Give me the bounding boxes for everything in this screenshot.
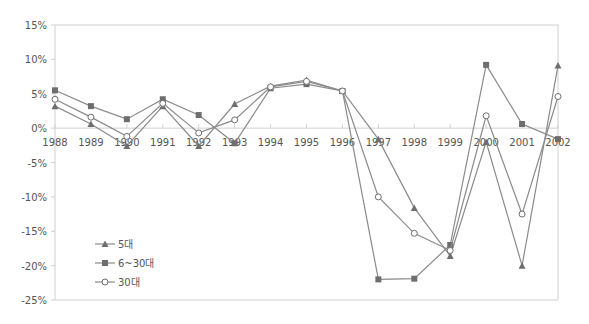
- circle-marker-icon: [52, 96, 58, 102]
- square-marker-icon: [411, 276, 417, 282]
- line-chart: 15%10%5%0%-5%-10%-15%-20%-25% 1988198919…: [0, 0, 589, 324]
- circle-marker-icon: [483, 113, 489, 119]
- triangle-marker-icon: [519, 262, 526, 269]
- series-line: [55, 66, 558, 266]
- square-marker-icon: [52, 87, 58, 93]
- circle-marker-icon: [519, 211, 525, 217]
- circle-marker-icon: [339, 88, 345, 94]
- x-tick-label: 1991: [150, 137, 175, 148]
- series-circle: [52, 78, 561, 253]
- y-tick-label: 15%: [25, 20, 47, 31]
- legend-label: 30대: [118, 277, 140, 288]
- square-marker-icon: [196, 112, 202, 118]
- y-axis: 15%10%5%0%-5%-10%-15%-20%-25%: [21, 20, 55, 306]
- x-tick-label: 2001: [509, 137, 534, 148]
- circle-marker-icon: [196, 130, 202, 136]
- square-marker-icon: [88, 103, 94, 109]
- series-triangle: [52, 62, 562, 269]
- square-marker-icon: [232, 140, 238, 146]
- x-tick-label: 1995: [294, 137, 319, 148]
- triangle-marker-icon: [555, 62, 562, 69]
- legend-item: 5대: [95, 239, 133, 250]
- y-tick-label: -10%: [21, 192, 47, 203]
- y-tick-label: 5%: [31, 89, 47, 100]
- legend-item: 6~30대: [95, 258, 154, 269]
- triangle-marker-icon: [411, 204, 418, 211]
- x-tick-label: 1999: [437, 137, 462, 148]
- square-marker-icon: [102, 260, 108, 266]
- circle-marker-icon: [447, 248, 453, 254]
- circle-marker-icon: [411, 230, 417, 236]
- circle-marker-icon: [304, 78, 310, 84]
- x-tick-label: 1989: [78, 137, 103, 148]
- circle-marker-icon: [102, 279, 108, 285]
- circle-marker-icon: [160, 100, 166, 106]
- circle-marker-icon: [124, 133, 130, 139]
- triangle-marker-icon: [87, 121, 94, 128]
- y-tick-label: 0%: [31, 123, 47, 134]
- legend-label: 6~30대: [118, 258, 154, 269]
- square-marker-icon: [555, 136, 561, 142]
- triangle-marker-icon: [52, 103, 59, 110]
- square-marker-icon: [519, 121, 525, 127]
- legend-label: 5대: [118, 239, 133, 250]
- square-marker-icon: [375, 276, 381, 282]
- x-tick-label: 1998: [402, 137, 427, 148]
- y-tick-label: -20%: [21, 261, 47, 272]
- triangle-marker-icon: [231, 101, 238, 108]
- legend: 5대6~30대30대: [95, 239, 154, 288]
- circle-marker-icon: [555, 94, 561, 100]
- legend-item: 30대: [95, 277, 140, 288]
- x-tick-label: 1994: [258, 137, 283, 148]
- y-tick-label: -15%: [21, 226, 47, 237]
- square-marker-icon: [483, 62, 489, 68]
- x-tick-label: 1988: [42, 137, 67, 148]
- circle-marker-icon: [232, 117, 238, 123]
- series-line: [55, 81, 558, 250]
- circle-marker-icon: [375, 194, 381, 200]
- circle-marker-icon: [88, 114, 94, 120]
- y-tick-label: -5%: [28, 158, 47, 169]
- y-tick-label: 10%: [25, 54, 47, 65]
- circle-marker-icon: [268, 84, 274, 90]
- square-marker-icon: [124, 116, 130, 122]
- x-axis: 1988198919901991199219931994199519961997…: [42, 124, 570, 148]
- y-tick-label: -25%: [21, 295, 47, 306]
